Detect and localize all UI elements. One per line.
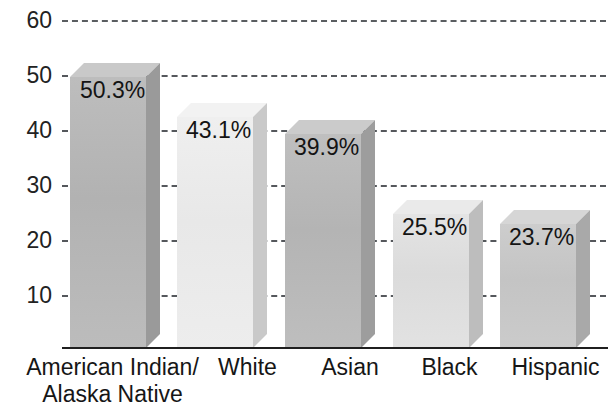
bar-american-indian-alaska-native [70, 63, 146, 348]
bar-front-face [285, 134, 361, 348]
x-axis-label-hispanic: Hispanic [498, 354, 613, 381]
x-axis-label-asian: Asian [300, 354, 400, 381]
y-axis-tick-30: 30 [0, 174, 52, 197]
bar-front-face [177, 117, 253, 348]
bar-side-face [361, 120, 375, 348]
bar-value-hispanic: 23.7% [509, 226, 574, 249]
y-axis-tick-10: 10 [0, 284, 52, 307]
y-axis-tick-20: 20 [0, 229, 52, 252]
bar-value-american-indian-alaska-native: 50.3% [80, 79, 145, 102]
y-axis-tick-60: 60 [0, 9, 52, 32]
bar-side-face [146, 63, 160, 348]
bar-side-face [469, 200, 483, 348]
bar-value-asian: 39.9% [294, 136, 359, 159]
bar-chart: 60 50 40 30 20 10 50.3% 43.1% 39.9% 25.5… [0, 0, 613, 412]
x-axis-label-black: Black [402, 354, 497, 381]
bar-side-face [576, 210, 590, 348]
y-axis-tick-40: 40 [0, 119, 52, 142]
x-axis-label-white: White [200, 354, 295, 381]
bar-value-black: 25.5% [402, 216, 467, 239]
y-axis-tick-50: 50 [0, 64, 52, 87]
bar-front-face [70, 77, 146, 348]
bar-side-face [253, 103, 267, 348]
x-axis-baseline [62, 347, 608, 349]
gridline-60 [62, 20, 606, 22]
x-axis-label-american-indian-alaska-native: American Indian/ Alaska Native [20, 354, 205, 408]
bar-value-white: 43.1% [186, 119, 251, 142]
